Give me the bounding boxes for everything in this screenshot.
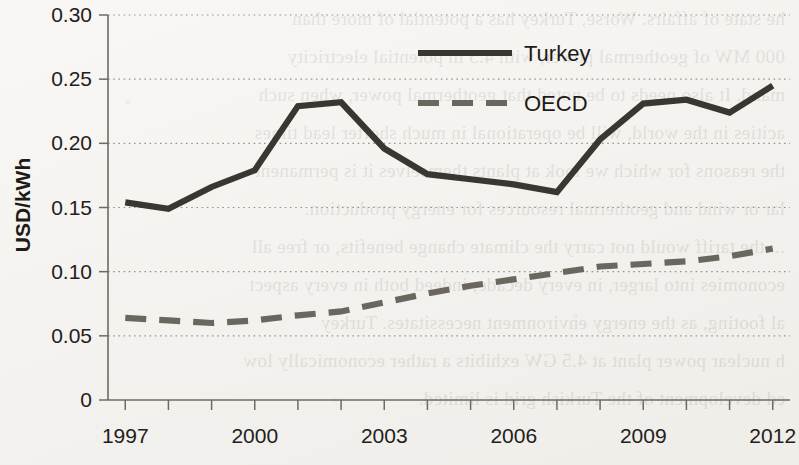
y-axis-ticks [99,15,108,400]
chart-figure: he state of affairs. Worse, Turkey has a… [0,0,799,465]
series-line-turkey [125,86,772,209]
y-tick-label: 0.20 [51,131,92,154]
x-tick-label: 1997 [102,424,149,447]
x-tick-label: 2000 [231,424,278,447]
y-tick-label: 0.15 [51,196,92,219]
y-axis-tick-labels: 00.050.100.150.200.250.30 [51,3,92,411]
y-tick-label: 0 [80,388,92,411]
legend: Turkey OECD [418,41,590,116]
y-tick-label: 0.30 [51,3,92,26]
y-tick-label: 0.10 [51,260,92,283]
x-tick-label: 2012 [749,424,796,447]
x-tick-label: 2009 [620,424,667,447]
x-tick-label: 2003 [361,424,408,447]
y-tick-label: 0.25 [51,67,92,90]
line-chart-svg: 00.050.100.150.200.250.30 19972000200320… [0,0,799,465]
x-axis-tick-labels: 199720002003200620092012 [102,424,796,447]
x-tick-label: 2006 [490,424,537,447]
series-line-oecd [125,249,772,323]
legend-label-turkey: Turkey [524,41,590,66]
y-axis-title: USD/kWh [11,158,34,253]
legend-label-oecd: OECD [524,91,588,116]
y-tick-label: 0.05 [51,324,92,347]
x-axis-ticks [125,400,772,410]
